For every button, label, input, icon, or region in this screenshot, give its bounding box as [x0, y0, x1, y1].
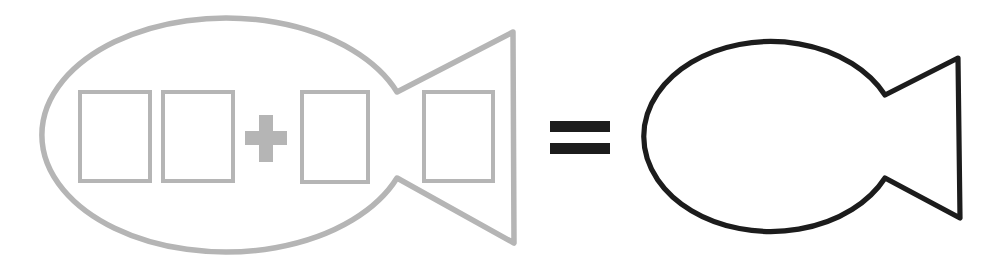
blank-card-3 [302, 92, 368, 182]
black-fish-outline [644, 42, 960, 232]
plus-sign [245, 115, 287, 162]
blank-card-1 [80, 92, 150, 181]
equals-sign-bottom-bar [550, 143, 610, 154]
equals-sign-top-bar [550, 121, 610, 132]
blank-card-2 [163, 92, 233, 181]
blank-card-4 [424, 92, 493, 181]
figure-canvas [0, 0, 999, 263]
fish-equation-figure [0, 0, 999, 263]
